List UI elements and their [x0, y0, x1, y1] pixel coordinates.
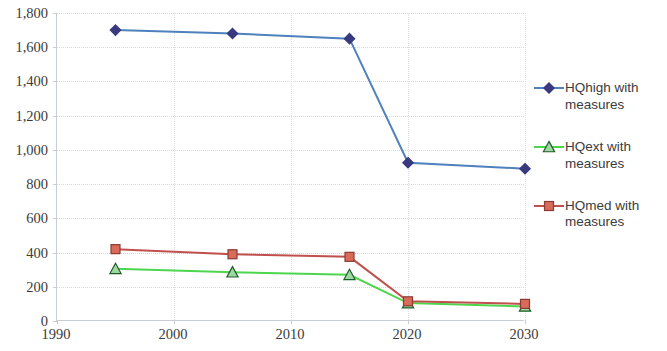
legend-label: HQext with measures	[565, 139, 667, 173]
y-axis-tick-label: 600	[0, 211, 48, 226]
diamond-marker-icon	[534, 81, 564, 95]
plot-area	[56, 13, 524, 321]
y-axis-tick-label: 400	[0, 245, 48, 260]
series-line	[116, 269, 526, 307]
data-point-marker	[227, 28, 237, 38]
y-axis-tick-label: 200	[0, 280, 48, 295]
data-point-marker	[520, 164, 530, 174]
y-axis-labels: 02004006008001,0001,2001,4001,6001,800	[0, 13, 48, 321]
chart-legend: HQhigh with measuresHQext with measuresH…	[534, 80, 667, 256]
y-axis-tick-label: 1,200	[0, 108, 48, 123]
data-point-marker	[345, 252, 354, 261]
y-axis-tick-label: 1,600	[0, 40, 48, 55]
data-point-marker	[344, 33, 354, 43]
series-2	[110, 263, 531, 311]
data-point-marker	[404, 297, 413, 306]
data-point-marker	[110, 25, 120, 35]
line-chart: 02004006008001,0001,2001,4001,6001,800 1…	[0, 0, 667, 351]
x-axis-labels: 19902000201020202030	[56, 327, 524, 349]
series-1	[110, 25, 530, 174]
y-axis-tick-label: 1,400	[0, 74, 48, 89]
legend-label: HQhigh with measures	[565, 80, 667, 114]
legend-label: HQmed with measures	[565, 198, 667, 232]
series-layer	[57, 13, 525, 321]
legend-entry[interactable]: HQmed with measures	[534, 198, 667, 232]
series-line	[116, 30, 526, 169]
data-point-marker	[228, 250, 237, 259]
y-axis-tick-label: 1,800	[0, 6, 48, 21]
x-axis-tick-label: 2010	[276, 327, 305, 342]
data-point-marker	[403, 158, 413, 168]
x-axis-tick-label: 2000	[159, 327, 188, 342]
data-point-marker	[111, 245, 120, 254]
series-line	[116, 249, 526, 304]
triangle-marker-icon	[534, 140, 564, 154]
x-axis-tick-mark	[525, 320, 526, 324]
x-axis-tick-label: 1990	[42, 327, 71, 342]
x-axis-tick-label: 2030	[510, 327, 539, 342]
y-axis-tick-label: 1,000	[0, 143, 48, 158]
legend-entry[interactable]: HQext with measures	[534, 139, 667, 173]
x-axis-tick-label: 2020	[393, 327, 422, 342]
series-3	[111, 245, 530, 309]
square-marker-icon	[534, 199, 564, 213]
legend-entry[interactable]: HQhigh with measures	[534, 80, 667, 114]
data-point-marker	[521, 299, 530, 308]
y-axis-tick-label: 800	[0, 177, 48, 192]
